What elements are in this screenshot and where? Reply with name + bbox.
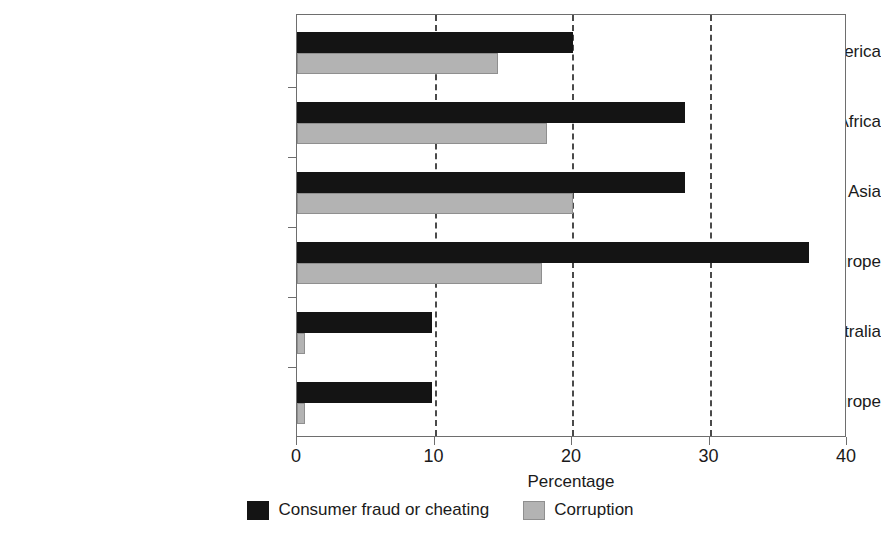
x-axis-tick-20	[571, 437, 572, 445]
bar-corruption	[297, 123, 547, 144]
chart-legend: Consumer fraud or cheatingCorruption	[0, 500, 881, 520]
gridline-30	[710, 15, 712, 436]
legend-item-0: Consumer fraud or cheating	[247, 500, 489, 520]
bar-group	[297, 312, 845, 354]
x-axis-tick-40	[846, 437, 847, 445]
gray-swatch	[523, 501, 545, 520]
bar-consumer-fraud	[297, 382, 432, 403]
gridline-10	[435, 15, 437, 436]
bar-group	[297, 102, 845, 144]
plot-area	[296, 14, 846, 437]
bar-consumer-fraud	[297, 32, 573, 53]
bar-consumer-fraud	[297, 312, 432, 333]
bar-corruption	[297, 193, 573, 214]
bar-consumer-fraud	[297, 172, 685, 193]
x-axis-tick-label-0: 0	[266, 446, 326, 467]
bar-corruption	[297, 403, 305, 424]
x-axis-tick-label-10: 10	[404, 446, 464, 467]
chart-figure: Latin AmericaAfricaAsiaCentral and Easte…	[0, 0, 881, 549]
bar-consumer-fraud	[297, 242, 809, 263]
x-axis-tick-label-30: 30	[679, 446, 739, 467]
bar-group	[297, 32, 845, 74]
x-axis-title: Percentage	[296, 472, 846, 492]
x-axis-tick-0	[296, 437, 297, 445]
bar-corruption	[297, 53, 498, 74]
x-axis-tick-label-40: 40	[816, 446, 876, 467]
x-axis-tick-30	[709, 437, 710, 445]
black-swatch	[247, 501, 269, 520]
bar-corruption	[297, 263, 542, 284]
bar-group	[297, 172, 845, 214]
gridline-20	[572, 15, 574, 436]
legend-item-1: Corruption	[523, 500, 633, 520]
x-axis-tick-label-20: 20	[541, 446, 601, 467]
x-axis-tick-10	[434, 437, 435, 445]
bar-consumer-fraud	[297, 102, 685, 123]
legend-label-0: Consumer fraud or cheating	[278, 500, 489, 520]
bar-corruption	[297, 333, 305, 354]
bar-group	[297, 242, 845, 284]
bar-group	[297, 382, 845, 424]
legend-label-1: Corruption	[554, 500, 633, 520]
